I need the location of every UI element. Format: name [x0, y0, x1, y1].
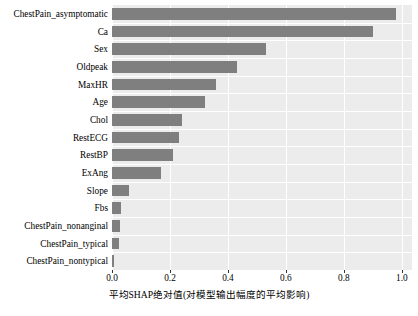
y-axis-tick-label: ChestPain_nonanginal	[0, 221, 108, 231]
bar	[112, 61, 237, 73]
bar	[112, 149, 173, 161]
y-axis-tick-label: RestBP	[0, 150, 108, 160]
bar-row	[112, 220, 412, 232]
row-separator	[112, 76, 412, 77]
y-axis-tick-label: Slope	[0, 186, 108, 196]
bar-row	[112, 167, 412, 179]
plot-area	[112, 5, 412, 270]
bar-row	[112, 255, 412, 267]
bar	[112, 43, 266, 55]
bar-row	[112, 96, 412, 108]
row-separator	[112, 146, 412, 147]
y-axis-tick-label: RestECG	[0, 133, 108, 143]
bar-row	[112, 61, 412, 73]
x-axis-tick-label: 0.0	[106, 273, 118, 284]
row-separator	[112, 182, 412, 183]
bar	[112, 132, 179, 144]
y-axis-tick-label: Chol	[0, 115, 108, 125]
y-axis-tick-label: Ca	[0, 27, 108, 37]
bar	[112, 79, 216, 91]
bar	[112, 26, 373, 38]
bar-row	[112, 202, 412, 214]
bar	[112, 114, 182, 126]
bar-row	[112, 114, 412, 126]
bar	[112, 185, 129, 197]
x-axis-tick-label: 0.2	[164, 273, 176, 284]
y-axis-tick-label: ExAng	[0, 168, 108, 178]
x-axis-tick-labels: 0.00.20.40.60.81.0	[112, 270, 412, 284]
row-separator	[112, 129, 412, 130]
row-separator	[112, 235, 412, 236]
row-separator	[112, 93, 412, 94]
row-separator	[112, 199, 412, 200]
row-separator	[112, 23, 412, 24]
x-axis-title: 平均SHAP绝对值(对模型输出幅度的平均影响)	[0, 289, 418, 301]
row-separator	[112, 164, 412, 165]
y-axis-tick-label: ChestPain_asymptomatic	[0, 9, 108, 19]
bar-row	[112, 238, 412, 250]
y-axis-tick-labels: ChestPain_asymptomaticCaSexOldpeakMaxHRA…	[0, 5, 108, 270]
y-axis-tick-label: MaxHR	[0, 80, 108, 90]
y-axis-tick-label: ChestPain_typical	[0, 239, 108, 249]
y-axis-tick-label: Sex	[0, 44, 108, 54]
x-axis-tick-label: 1.0	[396, 273, 408, 284]
bar-row	[112, 132, 412, 144]
bar-row	[112, 185, 412, 197]
x-axis-tick-label: 0.6	[280, 273, 292, 284]
row-separator	[112, 58, 412, 59]
bar	[112, 238, 119, 250]
y-axis-tick-label: ChestPain_nontypical	[0, 256, 108, 266]
y-axis-tick-label: Age	[0, 97, 108, 107]
bar	[112, 96, 205, 108]
row-separator	[112, 40, 412, 41]
bar	[112, 167, 161, 179]
x-axis-tick-label: 0.4	[222, 273, 234, 284]
row-separator	[112, 111, 412, 112]
bar-row	[112, 149, 412, 161]
row-separator	[112, 217, 412, 218]
bar-row	[112, 79, 412, 91]
bar-row	[112, 43, 412, 55]
bar	[112, 202, 121, 214]
x-axis-tick-label: 0.8	[338, 273, 350, 284]
bar-row	[112, 8, 412, 20]
y-axis-tick-label: Fbs	[0, 203, 108, 213]
row-separator	[112, 252, 412, 253]
bar	[112, 220, 120, 232]
bar-series	[112, 5, 412, 270]
bar	[112, 8, 396, 20]
bar-row	[112, 26, 412, 38]
bar	[112, 255, 114, 267]
y-axis-tick-label: Oldpeak	[0, 62, 108, 72]
shap-feature-importance-chart: ChestPain_asymptomaticCaSexOldpeakMaxHRA…	[0, 0, 418, 316]
